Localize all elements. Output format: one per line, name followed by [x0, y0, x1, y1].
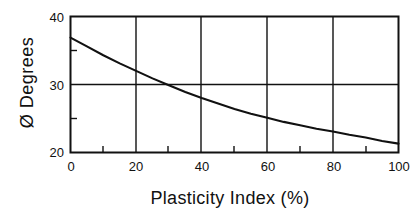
x-tick-label-80: 80: [314, 159, 354, 174]
x-tick-label-100: 100: [379, 159, 418, 174]
y-axis-title: Ø Degrees: [17, 13, 38, 153]
x-axis-title: Plasticity Index (%): [60, 188, 400, 209]
y-tick-label-40: 40: [36, 10, 64, 25]
chart-figure: 40 30 20 0 20 40 60 80 100 Ø Degrees Pla…: [0, 0, 418, 220]
x-tick-label-40: 40: [182, 159, 222, 174]
x-tick-label-0: 0: [51, 159, 91, 174]
y-tick-label-30: 30: [36, 78, 64, 93]
x-tick-label-60: 60: [248, 159, 288, 174]
x-tick-label-20: 20: [116, 159, 156, 174]
plot-area-svg: [0, 0, 418, 220]
y-tick-label-20: 20: [36, 145, 64, 160]
